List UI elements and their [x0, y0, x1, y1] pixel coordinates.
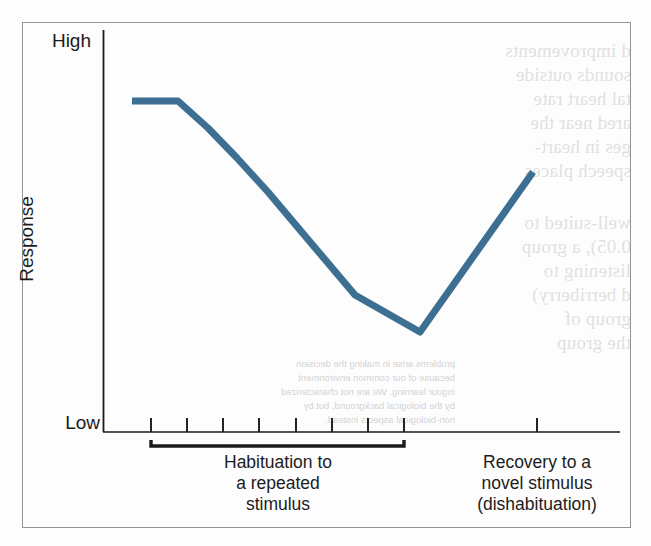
habituation-caption-line-3: stimulus	[188, 494, 368, 515]
recovery-caption-line-1: Recovery to a	[447, 452, 627, 473]
response-curve	[132, 101, 533, 332]
habituation-caption: Habituation to a repeated stimulus	[188, 452, 368, 515]
habituation-bracket	[151, 440, 404, 446]
recovery-caption-line-3: (dishabituation)	[447, 494, 627, 515]
recovery-caption-line-2: novel stimulus	[447, 473, 627, 494]
habituation-caption-line-2: a repeated	[188, 473, 368, 494]
y-axis-low-label: Low	[65, 412, 100, 434]
y-axis-high-label: High	[52, 30, 91, 52]
habituation-figure: d improvements sounds outside tal heart …	[0, 0, 651, 546]
y-axis-title: Response	[16, 179, 38, 299]
x-axis-ticks-habituation	[151, 418, 404, 432]
habituation-caption-line-1: Habituation to	[188, 452, 368, 473]
recovery-caption: Recovery to a novel stimulus (dishabitua…	[447, 452, 627, 515]
